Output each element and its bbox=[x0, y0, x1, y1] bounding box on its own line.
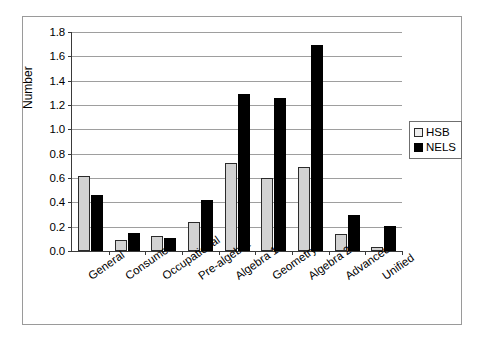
bar-nels-advanced bbox=[348, 215, 360, 251]
bar-hsb-algebra-2 bbox=[298, 167, 310, 251]
bar-nels-algebra-2 bbox=[311, 45, 323, 251]
y-tick-label: 1.4 bbox=[50, 75, 65, 87]
bar-chart-canvas: Number 0.00.20.40.60.81.01.21.41.61.8 Ge… bbox=[23, 17, 461, 324]
y-tick-mark bbox=[68, 32, 72, 33]
legend-item-hsb[interactable]: HSB bbox=[414, 125, 456, 140]
bar-group bbox=[298, 32, 323, 251]
bar-group bbox=[115, 32, 140, 251]
bar-nels-consumer bbox=[128, 233, 140, 251]
y-tick-mark bbox=[68, 251, 72, 252]
y-tick-label: 1.0 bbox=[50, 123, 65, 135]
y-tick-mark bbox=[68, 154, 72, 155]
y-tick-mark bbox=[68, 178, 72, 179]
plot-area: 0.00.20.40.60.81.01.21.41.61.8 bbox=[71, 32, 402, 252]
y-tick-label: 0.2 bbox=[50, 221, 65, 233]
chart-legend: HSBNELS bbox=[409, 121, 462, 159]
y-tick-label: 0.8 bbox=[50, 148, 65, 160]
legend-swatch-nels-icon bbox=[414, 143, 423, 152]
legend-item-nels[interactable]: NELS bbox=[414, 140, 456, 155]
y-tick-mark bbox=[68, 202, 72, 203]
bar-nels-algebra-1 bbox=[238, 94, 250, 251]
x-category-label: General bbox=[86, 249, 126, 282]
y-tick-mark bbox=[68, 56, 72, 57]
bar-group bbox=[78, 32, 103, 251]
y-tick-label: 0.4 bbox=[50, 196, 65, 208]
legend-label: NELS bbox=[426, 142, 456, 154]
y-tick-label: 1.8 bbox=[50, 26, 65, 38]
bar-hsb-general bbox=[78, 176, 90, 251]
bar-group bbox=[151, 32, 176, 251]
y-tick-mark bbox=[68, 105, 72, 106]
y-tick-label: 0.6 bbox=[50, 172, 65, 184]
bar-group bbox=[261, 32, 286, 251]
y-tick-mark bbox=[68, 227, 72, 228]
bar-group bbox=[188, 32, 213, 251]
y-tick-label: 1.6 bbox=[50, 50, 65, 62]
bar-group bbox=[335, 32, 360, 251]
legend-label: HSB bbox=[426, 127, 450, 139]
bar-nels-geometry bbox=[274, 98, 286, 251]
y-tick-label: 1.2 bbox=[50, 99, 65, 111]
y-axis-title: Number bbox=[21, 66, 35, 109]
y-tick-mark bbox=[68, 81, 72, 82]
y-tick-label: 0.0 bbox=[50, 245, 65, 257]
bar-nels-general bbox=[91, 195, 103, 251]
y-tick-mark bbox=[68, 129, 72, 130]
chart-figure-frame: Number 0.00.20.40.60.81.01.21.41.61.8 Ge… bbox=[22, 16, 462, 325]
legend-swatch-hsb-icon bbox=[414, 128, 423, 137]
bar-group bbox=[371, 32, 396, 251]
bar-group bbox=[225, 32, 250, 251]
bar-hsb-algebra-1 bbox=[225, 163, 237, 251]
bar-hsb-geometry bbox=[261, 178, 273, 251]
